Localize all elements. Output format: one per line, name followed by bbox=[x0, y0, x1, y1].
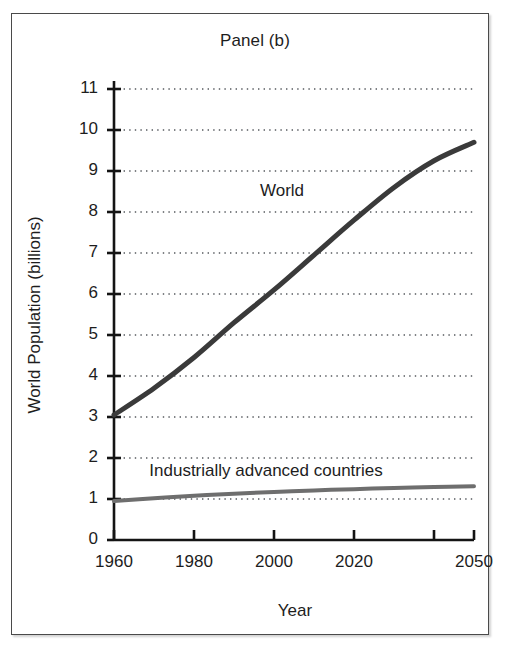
y-axis-tick-label: 5 bbox=[58, 324, 98, 344]
y-axis-tick-label: 10 bbox=[58, 119, 98, 139]
y-axis-tick-label: 6 bbox=[58, 283, 98, 303]
y-axis-tick-label: 3 bbox=[58, 406, 98, 426]
x-axis-tick-label: 2000 bbox=[239, 552, 309, 572]
y-axis-tick-label: 8 bbox=[58, 201, 98, 221]
y-axis-tick-label: 4 bbox=[58, 365, 98, 385]
y-axis-tick-label: 0 bbox=[58, 529, 98, 549]
x-axis-tick-label: 1980 bbox=[159, 552, 229, 572]
x-axis-tick-label: 2020 bbox=[319, 552, 389, 572]
y-axis-tick-label: 9 bbox=[58, 160, 98, 180]
series-label: Industrially advanced countries bbox=[149, 461, 382, 481]
y-axis-tick-label: 7 bbox=[58, 242, 98, 262]
gridlines bbox=[118, 89, 474, 499]
y-axis-tick-label: 2 bbox=[58, 447, 98, 467]
y-axis-tick-label: 1 bbox=[58, 488, 98, 508]
series-label: World bbox=[260, 181, 304, 201]
population-line-chart: Panel (b) World Population (billions) Ye… bbox=[0, 0, 510, 656]
x-axis-tick-label: 1960 bbox=[79, 552, 149, 572]
series-line bbox=[114, 486, 474, 501]
x-axis-tick-label: 2050 bbox=[439, 552, 509, 572]
y-axis-tick-label: 11 bbox=[58, 78, 98, 98]
